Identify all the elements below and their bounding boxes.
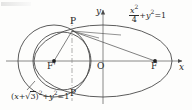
ellipse-eq-numerator-exp: 2	[135, 3, 139, 10]
geometry-figure: P P F' F y x O x2 4 +y2=1 (x+√3)2+y2=1	[0, 0, 192, 110]
equation-circle: (x+√3)2+y2=1	[11, 92, 69, 101]
label-x-axis: x	[179, 63, 184, 72]
ellipse-eq-denominator: 4	[129, 16, 139, 24]
equation-ellipse: x2 4 +y2=1	[129, 7, 166, 25]
segment-p-to-focus-right	[72, 31, 155, 61]
ellipse-eq-equals: =1	[154, 11, 166, 20]
label-point-p-lower: P	[70, 89, 76, 98]
fraction-x2-over-4: x2 4	[129, 7, 139, 25]
label-focus-right: F	[151, 62, 157, 71]
ellipse-eq-tail: +y	[139, 11, 150, 20]
label-focus-left: F'	[47, 62, 56, 71]
circle-eq-mid: +y	[43, 92, 54, 101]
segment-p-to-focus-left	[54, 31, 72, 61]
label-origin: O	[97, 62, 104, 71]
circle-eq-equals: =1	[58, 92, 70, 101]
label-point-p-upper: P	[70, 17, 76, 26]
label-y-axis: y	[96, 7, 101, 16]
